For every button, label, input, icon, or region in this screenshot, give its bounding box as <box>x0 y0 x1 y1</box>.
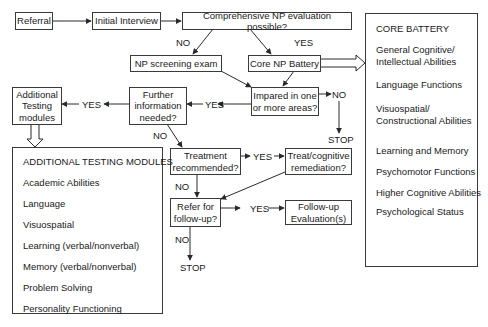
edge-label-comp-no: NO <box>176 37 190 48</box>
additional-modules-title: ADDITIONAL TESTING MODULES <box>23 156 173 168</box>
additional-module-item: Learning (verbal/nonverbal) <box>23 240 139 252</box>
core-battery-item: Learning and Memory <box>376 145 468 157</box>
additional-module-item: Personality Functioning <box>23 303 122 315</box>
core-battery-item: Psychological Status <box>376 206 464 218</box>
edge-label-treatment-no: NO <box>175 181 189 192</box>
node-impaired-line1: Impared in one <box>253 90 316 102</box>
node-refer-followup: Refer for follow-up? <box>170 198 221 227</box>
node-core-np-battery: Core NP Battery <box>248 55 321 72</box>
edge-label-impaired-yes: YES <box>205 99 224 110</box>
core-battery-panel: CORE BATTERY General Cognitive/ Intellec… <box>365 13 478 267</box>
node-comprehensive-evaluation: Comprehensive NP evaluation possible? <box>182 12 352 30</box>
node-further-information: Further information needed? <box>129 87 187 125</box>
node-additional-testing: Additional Testing modules <box>12 87 62 125</box>
node-initial-interview: Initial Interview <box>92 12 161 30</box>
node-referral-label: Referral <box>17 15 51 27</box>
edge-label-refer-stop: STOP <box>180 262 206 273</box>
node-additional-line3: modules <box>19 112 55 124</box>
node-followup-evaluations: Follow-up Evaluation(s) <box>285 200 352 225</box>
node-comprehensive-label: Comprehensive NP evaluation possible? <box>183 10 351 33</box>
edge-label-refer-no: NO <box>175 234 189 245</box>
node-additional-line2: Testing <box>22 100 52 112</box>
node-treatment-recommended: Treatment recommended? <box>170 148 241 175</box>
node-refer-line1: Refer for <box>177 201 214 213</box>
core-battery-item: Intellectual Abilities <box>376 56 456 68</box>
core-battery-item: General Cognitive/ <box>376 44 455 56</box>
node-followup-line2: Evaluation(s) <box>291 213 346 225</box>
edge-label-refer-yes: YES <box>250 203 269 214</box>
core-battery-item: Language Functions <box>376 79 462 91</box>
node-np-screening-exam: NP screening exam <box>130 55 222 72</box>
node-additional-line1: Additional <box>16 89 58 101</box>
node-treatment-line1: Treatment <box>184 150 227 162</box>
core-battery-item: Visuospatial/ <box>376 103 430 115</box>
node-further-line3: needed? <box>140 112 177 124</box>
additional-module-item: Problem Solving <box>23 282 92 294</box>
core-battery-title: CORE BATTERY <box>376 23 449 35</box>
edge-label-further-no: NO <box>153 130 167 141</box>
node-refer-line2: follow-up? <box>174 213 217 225</box>
edge-label-impaired-no: NO <box>332 89 346 100</box>
additional-module-item: Visuospatial <box>23 219 74 231</box>
node-np-screening-label: NP screening exam <box>135 58 218 70</box>
edge-label-impaired-stop: STOP <box>328 134 354 145</box>
core-battery-item: Psychomotor Functions <box>376 166 475 178</box>
node-further-line1: Further <box>143 89 174 101</box>
edge-label-treatment-yes: YES <box>253 151 272 162</box>
node-initial-interview-label: Initial Interview <box>95 15 158 27</box>
node-core-np-battery-label: Core NP Battery <box>250 58 319 70</box>
node-followup-line1: Follow-up <box>298 201 339 213</box>
node-treat-remediation: Treat/cognitive remediation? <box>285 148 352 175</box>
additional-module-item: Academic Abilities <box>23 177 100 189</box>
node-treat-line2: remediation? <box>291 162 346 174</box>
edge-label-comp-yes: YES <box>294 37 313 48</box>
additional-module-item: Memory (verbal/nonverbal) <box>23 261 137 273</box>
node-treat-line1: Treat/cognitive <box>288 150 350 162</box>
node-referral: Referral <box>15 12 53 30</box>
core-battery-item: Higher Cognitive Abilities <box>376 187 481 199</box>
node-further-line2: information <box>135 100 182 112</box>
core-battery-item: Constructional Abilities <box>376 115 472 127</box>
node-impaired: Impared in one or more areas? <box>251 87 319 116</box>
additional-module-item: Language <box>23 198 65 210</box>
node-treatment-line2: recommended? <box>172 162 238 174</box>
edge-label-further-yes: YES <box>82 99 101 110</box>
additional-modules-panel: ADDITIONAL TESTING MODULES Academic Abil… <box>12 147 163 314</box>
node-impaired-line2: or more areas? <box>253 102 317 114</box>
